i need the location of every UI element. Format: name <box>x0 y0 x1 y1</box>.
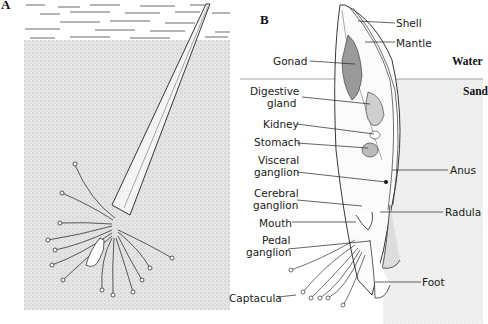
label-mantle: Mantle <box>396 37 432 49</box>
water-zone-label: Water <box>452 55 483 67</box>
label-cerebral-ganglion-line2: ganglion <box>253 199 298 211</box>
label-pedal-ganglion-line2: ganglion <box>246 246 291 258</box>
label-digestive-gland-line1: Digestive <box>250 85 299 97</box>
label-captacula: Captacula <box>229 292 282 304</box>
label-foot: Foot <box>422 276 445 288</box>
sand-zone-label: Sand <box>463 85 488 97</box>
label-digestive-gland-line2: gland <box>267 97 296 109</box>
panel-b-label: B <box>260 12 269 28</box>
label-visceral-ganglion-line1: Visceral <box>258 154 299 166</box>
label-pedal-ganglion-line1: Pedal <box>262 234 290 246</box>
label-mouth: Mouth <box>259 217 292 229</box>
label-shell: Shell <box>396 17 422 29</box>
label-radula: Radula <box>445 206 481 218</box>
label-gonad: Gonad <box>273 55 307 67</box>
label-stomach: Stomach <box>254 136 300 148</box>
panel-a-label: A <box>1 0 10 13</box>
label-visceral-ganglion-line2: ganglion <box>254 166 299 178</box>
label-anus: Anus <box>450 164 476 176</box>
label-cerebral-ganglion-line1: Cerebral <box>254 187 299 199</box>
label-kidney: Kidney <box>263 118 299 130</box>
